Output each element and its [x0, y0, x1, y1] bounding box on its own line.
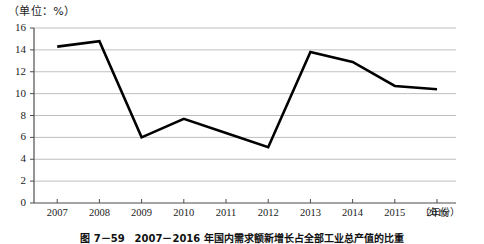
- y-tick-label: 8: [2, 110, 26, 121]
- x-tick-label: 2008: [79, 207, 119, 218]
- x-tick-label: 2007: [37, 207, 77, 218]
- plot-area: 0246810121416 20072008200920102011201220…: [0, 0, 484, 215]
- y-tick-label: 10: [2, 88, 26, 99]
- x-tick-label: 2014: [333, 207, 373, 218]
- x-tick-label: 2012: [248, 207, 288, 218]
- gridlines-group: [34, 28, 456, 181]
- figure-container: （单位：%） 0246810121416 2007200820092010201…: [0, 0, 484, 244]
- x-tick-label: 2011: [206, 207, 246, 218]
- x-tick-label: 2013: [290, 207, 330, 218]
- figure-caption: 图 7－59 2007－2016 年国内需求额新增长占全部工业总产值的比重: [0, 233, 484, 244]
- y-tick-label: 16: [2, 22, 26, 33]
- x-tick-label: 2009: [122, 207, 162, 218]
- y-tick-label: 4: [2, 153, 26, 164]
- y-tick-label: 12: [2, 66, 26, 77]
- x-tick-label: 2015: [375, 207, 415, 218]
- line-chart-svg: [0, 0, 484, 215]
- y-tick-label: 6: [2, 131, 26, 142]
- y-tick-label: 0: [2, 197, 26, 208]
- x-axis-unit-label: （年份）: [420, 207, 460, 218]
- x-tick-label: 2010: [164, 207, 204, 218]
- y-tick-label: 2: [2, 175, 26, 186]
- data-series-line: [57, 41, 437, 147]
- y-tick-label: 14: [2, 44, 26, 55]
